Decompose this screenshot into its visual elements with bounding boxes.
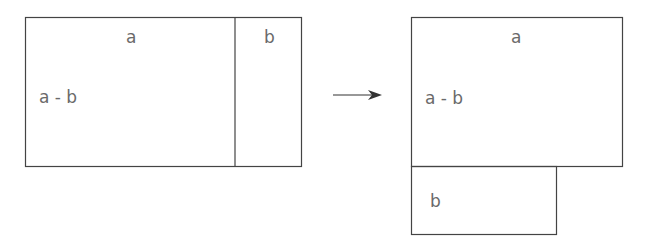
- left-figure: a b a - b: [26, 18, 302, 167]
- right-figure: a a - b b: [412, 18, 623, 235]
- right-label-b: b: [430, 191, 441, 211]
- right-label-a: a: [511, 27, 521, 47]
- left-label-a-minus-b: a - b: [39, 87, 77, 107]
- right-arrow-icon: [333, 90, 382, 100]
- left-label-b: b: [264, 27, 275, 47]
- left-label-a: a: [126, 27, 136, 47]
- right-label-a-minus-b: a - b: [425, 88, 463, 108]
- diagram: a b a - b a a - b b: [0, 0, 649, 243]
